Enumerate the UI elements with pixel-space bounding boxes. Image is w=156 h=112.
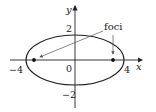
tick-label-x-pos: 4 (124, 64, 130, 75)
tick-label-x-neg: −4 (9, 64, 23, 75)
tick-label-y-neg: −2 (62, 89, 76, 100)
focus-left-point (32, 58, 36, 62)
y-axis-label: y (65, 4, 72, 15)
ellipse-diagram: y x 2 −2 0 −4 4 foci (0, 0, 156, 112)
foci-label: foci (104, 21, 123, 32)
x-axis-label: x (136, 61, 142, 72)
tick-label-origin: 0 (66, 63, 72, 74)
focus-right-point (111, 58, 115, 62)
tick-label-y-pos: 2 (66, 23, 72, 34)
